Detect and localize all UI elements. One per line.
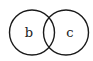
venn-diagram: b c bbox=[0, 0, 93, 61]
set-c-label: c bbox=[66, 25, 73, 40]
set-b-label: b bbox=[25, 25, 33, 40]
